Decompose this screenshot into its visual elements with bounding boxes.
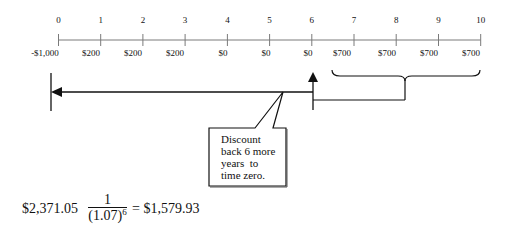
fraction-numerator: 1: [87, 192, 128, 207]
period-label: 2: [133, 15, 153, 25]
formula-result: = $1,579.93: [132, 201, 199, 217]
timeline-graphics: [0, 0, 508, 230]
callout-line: back 6 more: [221, 145, 275, 157]
present-value-result: $1,579.93: [143, 201, 199, 216]
equals-sign: =: [132, 201, 140, 216]
period-label: 1: [91, 15, 111, 25]
period-label: 10: [471, 15, 491, 25]
cash-flow-label: $700: [367, 48, 407, 58]
formula-amount: $2,371.05: [22, 201, 78, 217]
cash-flow-label: $200: [71, 48, 111, 58]
cash-flow-label: $700: [409, 48, 449, 58]
callout-text: Discount back 6 more years to time zero.: [221, 133, 275, 181]
cash-flow-label: $700: [451, 48, 491, 58]
period-label: 9: [429, 15, 449, 25]
up-arrowhead-icon: [308, 72, 318, 82]
period-label: 4: [217, 15, 237, 25]
annuity-brace: [332, 70, 480, 81]
denominator-base: (1.07): [88, 208, 122, 223]
discount-factor-fraction: 1 (1.07)6: [87, 192, 128, 224]
period-label: 6: [302, 15, 322, 25]
period-label: 3: [175, 15, 195, 25]
cash-flow-label: -$1,000: [25, 48, 65, 58]
period-label: 5: [260, 15, 280, 25]
period-label: 8: [386, 15, 406, 25]
cash-flow-label: $0: [203, 48, 243, 58]
denominator-exponent: 6: [122, 207, 127, 217]
left-arrowhead-icon: [51, 87, 62, 97]
fraction-denominator: (1.07)6: [87, 208, 128, 224]
cash-flow-label: $700: [322, 48, 362, 58]
callout-line: time zero.: [221, 169, 275, 181]
callout-line: years to: [221, 157, 275, 169]
cash-flow-label: $200: [155, 48, 195, 58]
cash-flow-label: $0: [246, 48, 286, 58]
period-label: 7: [344, 15, 364, 25]
callout-line: Discount: [221, 133, 275, 145]
cash-flow-label: $200: [113, 48, 153, 58]
period-label: 0: [49, 15, 69, 25]
